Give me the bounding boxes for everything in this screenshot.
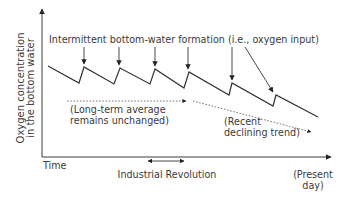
present-day-label-line1: (Present (293, 169, 333, 180)
recent-trend-label-line1: (Recent (224, 116, 261, 127)
long-term-label-line1: (Long-term average (70, 104, 166, 115)
oxygen-input-arrow-6 (245, 47, 273, 92)
y-axis-label: Oxygen concentration in the bottom water (15, 33, 36, 144)
recent-trend-label-line2: declining trend) (224, 127, 300, 138)
present-day-label-line2: day) (302, 180, 323, 191)
long-term-label-line2: remains unchanged) (70, 115, 169, 126)
y-axis-label-line2: in the bottom water (25, 37, 36, 138)
industrial-revolution-label: Industrial Revolution (118, 169, 217, 180)
oxygen-concentration-diagram: Oxygen concentration in the bottom water… (0, 0, 347, 199)
x-axis-time-label: Time (42, 160, 67, 171)
intermittent-formation-label: Intermittent bottom-water formation (i.e… (49, 34, 319, 45)
